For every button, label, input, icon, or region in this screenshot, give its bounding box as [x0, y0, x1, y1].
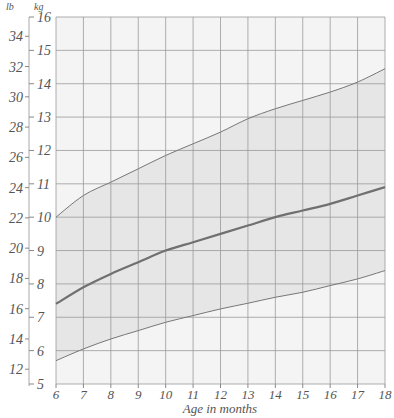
kg-tick-label: 5: [37, 377, 44, 392]
lb-tick-label: 18: [9, 271, 23, 286]
lb-tick-label: 34: [8, 29, 23, 44]
x-tick-label: 15: [296, 387, 310, 402]
lb-tick-label: 26: [9, 150, 23, 165]
kg-tick-label: 6: [37, 344, 44, 359]
x-tick-label: 18: [379, 387, 393, 402]
x-tick-label: 9: [135, 387, 142, 402]
lb-tick-label: 16: [9, 302, 23, 317]
x-axis-title: Age in months: [182, 401, 257, 416]
kg-axis-title: kg: [34, 1, 43, 12]
lb-tick-label: 12: [9, 362, 23, 377]
x-tick-label: 11: [187, 387, 199, 402]
kg-tick-label: 10: [37, 210, 51, 225]
kg-tick-label: 8: [37, 277, 44, 292]
kg-tick-label: 13: [37, 110, 51, 125]
lb-tick-label: 20: [9, 241, 23, 256]
x-tick-label: 14: [269, 387, 283, 402]
kg-tick-label: 15: [37, 43, 51, 58]
lb-axis-title: lb: [6, 1, 14, 12]
x-tick-label: 16: [324, 387, 338, 402]
x-tick-label: 12: [214, 387, 228, 402]
kg-tick-label: 14: [37, 77, 51, 92]
lb-tick-label: 22: [9, 211, 23, 226]
x-tick-label: 13: [241, 387, 255, 402]
lb-tick-label: 28: [9, 120, 23, 135]
lb-tick-label: 24: [9, 181, 23, 196]
kg-tick-label: 9: [37, 244, 44, 259]
growth-chart: 5678910111213141516121416182022242628303…: [0, 0, 394, 418]
x-tick-label: 8: [108, 387, 115, 402]
kg-tick-label: 7: [37, 310, 45, 325]
x-tick-label: 17: [351, 387, 365, 402]
kg-tick-label: 12: [37, 143, 51, 158]
lb-tick-label: 14: [9, 332, 23, 347]
x-tick-label: 7: [80, 387, 87, 402]
x-tick-label: 10: [159, 387, 173, 402]
lb-tick-label: 30: [8, 90, 23, 105]
kg-tick-label: 16: [37, 10, 51, 25]
x-tick-label: 6: [53, 387, 60, 402]
kg-tick-label: 11: [37, 177, 50, 192]
lb-tick-label: 32: [8, 60, 23, 75]
